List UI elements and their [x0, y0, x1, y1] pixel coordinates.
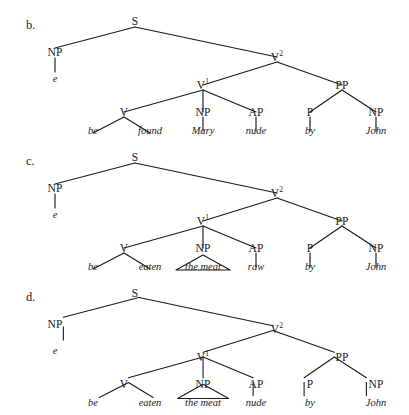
- tree-label-c: c.: [26, 154, 35, 169]
- node-v1-superscript: 1: [205, 349, 209, 358]
- terminal-object: the meat: [185, 398, 221, 409]
- node-v1-letter: V: [197, 215, 206, 227]
- node-v1-letter: V: [197, 351, 206, 363]
- terminal-participle: eaten: [139, 398, 162, 409]
- terminal-participle: eaten: [139, 262, 162, 273]
- edge-v1-v: [124, 90, 203, 112]
- node-v2: V2: [271, 324, 283, 336]
- node-s: S: [132, 288, 139, 300]
- tree-label-b: b.: [26, 18, 35, 33]
- edge-s-np: [63, 297, 139, 317]
- edge-s-v2: [139, 297, 273, 325]
- terminal-preposition: by: [305, 262, 315, 273]
- node-s: S: [132, 152, 139, 164]
- edge-v2-v1: [203, 331, 273, 353]
- terminal-aux: be: [88, 398, 98, 409]
- terminal-agent: John: [366, 398, 386, 409]
- node-v: V: [120, 379, 129, 391]
- node-v: V: [120, 243, 129, 255]
- node-p: P: [307, 107, 314, 119]
- edge-v1-v: [124, 226, 203, 248]
- node-p: P: [307, 243, 314, 255]
- terminal-agent: John: [366, 262, 386, 273]
- terminal-trace: e: [53, 210, 58, 221]
- node-subject-np: NP: [47, 319, 62, 331]
- edge-v2-v1: [203, 198, 277, 221]
- node-s: S: [132, 16, 139, 28]
- edge-v-participle: [129, 382, 154, 397]
- edge-v2-pp: [277, 198, 342, 221]
- terminal-adjective: nude: [246, 398, 266, 409]
- terminal-adjective: nude: [246, 126, 266, 137]
- edge-pp-p: [310, 90, 342, 112]
- edge-v2-v1: [203, 62, 277, 85]
- terminal-preposition: by: [305, 126, 315, 137]
- edge-s-v2: [135, 163, 277, 193]
- terminal-agent: John: [366, 126, 386, 137]
- node-pp-np: NP: [368, 243, 383, 255]
- node-pp: PP: [335, 216, 348, 228]
- terminal-aux: be: [88, 126, 98, 137]
- node-v2-letter: V: [271, 323, 280, 335]
- terminal-adjective: raw: [248, 262, 264, 273]
- node-pp: PP: [335, 352, 348, 364]
- node-v1-superscript: 1: [205, 213, 209, 222]
- edge-s-np: [55, 27, 135, 48]
- node-v1-superscript: 1: [205, 77, 209, 86]
- node-v: V: [120, 107, 129, 119]
- terminal-aux: be: [88, 262, 98, 273]
- edge-v1-v: [129, 357, 204, 378]
- node-v1: V1: [197, 80, 209, 92]
- syntax-tree-c: c. S NP V2 V1 PP V NP AP P NP e be eaten…: [0, 136, 409, 271]
- terminal-trace: e: [53, 74, 58, 85]
- tree-label-d: d.: [26, 290, 35, 305]
- edge-v2-pp: [277, 62, 342, 85]
- node-pp-np: NP: [368, 379, 383, 391]
- node-subject-np: NP: [47, 47, 62, 59]
- node-v1: V1: [197, 216, 209, 228]
- node-v1-letter: V: [197, 79, 206, 91]
- node-ap: AP: [248, 107, 263, 119]
- terminal-preposition: by: [305, 398, 315, 409]
- node-pp-np: NP: [368, 107, 383, 119]
- node-v2-superscript: 2: [279, 185, 283, 194]
- edge-s-v2: [135, 27, 277, 57]
- terminal-object: Mary: [192, 126, 215, 137]
- edge-s-np: [55, 163, 135, 184]
- terminal-participle: found: [138, 126, 162, 137]
- node-v2-superscript: 2: [279, 49, 283, 58]
- node-v2-letter: V: [271, 187, 280, 199]
- node-v2-letter: V: [271, 51, 280, 63]
- node-v2: V2: [271, 52, 283, 64]
- syntax-tree-d: d. S NP V2 V1 PP V NP AP P NP e be eaten…: [0, 272, 409, 407]
- node-v2-superscript: 2: [279, 321, 283, 330]
- terminal-object: the meat: [185, 262, 221, 273]
- node-v1: V1: [197, 352, 209, 364]
- syntax-tree-b: b. S NP V2 V1 PP V NP AP P NP e be found…: [0, 0, 409, 135]
- node-ap: AP: [248, 243, 263, 255]
- edge-v1-ap: [203, 357, 253, 378]
- node-v2: V2: [271, 188, 283, 200]
- node-pp: PP: [335, 80, 348, 92]
- node-object-np: NP: [195, 107, 210, 119]
- edge-pp-p: [304, 357, 334, 378]
- node-p: P: [307, 379, 314, 391]
- node-ap: AP: [248, 379, 263, 391]
- node-object-np: NP: [195, 379, 210, 391]
- node-subject-np: NP: [47, 183, 62, 195]
- node-object-np: NP: [195, 243, 210, 255]
- edge-pp-p: [310, 226, 342, 248]
- terminal-trace: e: [53, 346, 58, 357]
